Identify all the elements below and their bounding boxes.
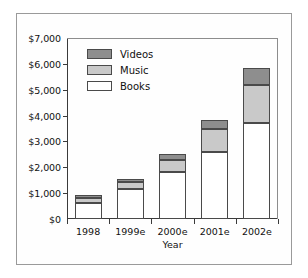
x-axis-tick-mark	[236, 219, 237, 224]
bar-segment-music	[117, 182, 144, 188]
y-axis-tick-label: $3,000	[17, 136, 61, 147]
bar-segment-videos	[243, 68, 270, 85]
y-axis-tick-label: $6,000	[17, 58, 61, 69]
bar-group	[243, 38, 270, 219]
x-axis-tick-label: 2000e	[157, 226, 187, 237]
x-axis-tick-mark	[109, 219, 110, 224]
bar-segment-videos	[159, 154, 186, 160]
y-axis-tick-mark	[63, 193, 67, 194]
y-axis-tick-label: $4,000	[17, 110, 61, 121]
y-axis-tick-mark	[63, 116, 67, 117]
bar-segment-books	[159, 172, 186, 219]
bar-segment-music	[159, 160, 186, 172]
legend-swatch-videos	[87, 49, 112, 59]
chart-figure: $0$1,000$2,000$3,000$4,000$5,000$6,000$7…	[16, 13, 292, 265]
legend-label: Music	[120, 65, 148, 76]
bar-segment-videos	[75, 195, 102, 198]
legend-swatch-books	[87, 81, 112, 91]
legend-label: Videos	[120, 49, 153, 60]
y-axis-tick-label: $1,000	[17, 188, 61, 199]
x-axis-tick-mark	[151, 219, 152, 224]
bar-segment-music	[201, 129, 228, 152]
x-axis-tick-mark	[278, 219, 279, 224]
x-axis-tick-label: 1998	[76, 226, 100, 237]
y-axis-tick-label: $5,000	[17, 84, 61, 95]
legend-item-music: Music	[87, 63, 153, 77]
bar-segment-videos	[201, 120, 228, 129]
x-axis-tick-mark	[194, 219, 195, 224]
y-axis-tick-label: $7,000	[17, 33, 61, 44]
y-axis-tick-mark	[63, 167, 67, 168]
bar-group	[201, 38, 228, 219]
x-axis-title: Year	[67, 239, 278, 250]
chart-legend: VideosMusicBooks	[87, 47, 153, 95]
y-axis-tick-mark	[63, 64, 67, 65]
bar-segment-books	[75, 203, 102, 219]
legend-swatch-music	[87, 65, 112, 75]
bar-segment-music	[243, 85, 270, 124]
y-axis-tick-label: $2,000	[17, 162, 61, 173]
y-axis-tick-mark	[63, 90, 67, 91]
x-axis-tick-label: 2001e	[200, 226, 230, 237]
x-axis-tick-label: 2002e	[242, 226, 272, 237]
bar-segment-books	[201, 152, 228, 219]
bar-segment-books	[243, 123, 270, 219]
x-axis-tick-label: 1999e	[115, 226, 145, 237]
bar-segment-videos	[117, 179, 144, 183]
bar-segment-music	[75, 198, 102, 203]
y-axis-tick-mark	[63, 141, 67, 142]
bar-group	[159, 38, 186, 219]
legend-label: Books	[120, 81, 150, 92]
y-axis-tick-label: $0	[17, 214, 61, 225]
legend-item-videos: Videos	[87, 47, 153, 61]
bar-segment-books	[117, 189, 144, 220]
legend-item-books: Books	[87, 79, 153, 93]
x-axis-tick-mark	[67, 219, 68, 224]
